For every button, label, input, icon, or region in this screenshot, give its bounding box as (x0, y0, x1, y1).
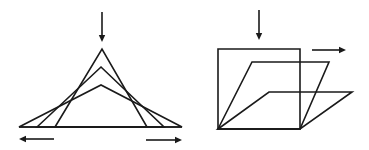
force-arrow-down-icon (256, 10, 262, 40)
triangle-1 (55, 49, 147, 127)
panel-left (19, 12, 182, 143)
force-arrow-down-icon (99, 12, 105, 42)
arrow-head-icon (19, 136, 26, 142)
parallelogram-2 (218, 62, 329, 129)
diagram-canvas (0, 0, 369, 150)
force-arrow-right-icon (146, 137, 182, 143)
deformation-diagram (0, 0, 369, 150)
triangle-2 (37, 67, 164, 127)
arrow-head-icon (256, 33, 262, 40)
force-arrow-left-icon (19, 136, 54, 142)
parallelogram-3 (218, 92, 352, 129)
arrow-head-icon (175, 137, 182, 143)
panel-right (218, 10, 352, 129)
arrow-head-icon (339, 47, 346, 53)
force-arrow-right-icon (312, 47, 346, 53)
arrow-head-icon (99, 35, 105, 42)
square-1 (218, 49, 300, 129)
